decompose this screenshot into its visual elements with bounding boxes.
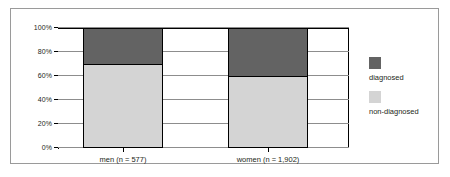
y-tick-0 (54, 147, 58, 148)
y-tick-80 (54, 51, 58, 52)
legend-swatch-non-diagnosed-icon (369, 91, 381, 103)
y-tick-100 (54, 27, 58, 28)
bar-segment-women-diagnosed[interactable] (229, 29, 307, 76)
legend-label-diagnosed: diagnosed (369, 74, 439, 82)
x-axis-label-women: women (n = 1,902) (237, 155, 300, 164)
bar-women[interactable] (228, 28, 308, 148)
legend-entry-non-diagnosed[interactable]: non-diagnosed (369, 91, 439, 116)
x-tick-women (268, 148, 269, 152)
legend-entry-diagnosed[interactable]: diagnosed (369, 57, 439, 82)
bar-segment-men-non-diagnosed[interactable] (84, 64, 162, 147)
bar-segment-men-diagnosed[interactable] (84, 29, 162, 64)
y-tick-20 (54, 123, 58, 124)
y-tick-60 (54, 75, 58, 76)
legend-label-non-diagnosed: non-diagnosed (369, 108, 439, 116)
x-tick-men (123, 148, 124, 152)
y-tick-label-0: 0% (42, 144, 52, 151)
chart-legend: diagnosed non-diagnosed (369, 57, 439, 124)
y-tick-label-20: 20% (38, 120, 52, 127)
legend-swatch-diagnosed-icon (369, 57, 381, 69)
bar-segment-women-non-diagnosed[interactable] (229, 76, 307, 147)
y-tick-label-40: 40% (38, 96, 52, 103)
chart-frame: 100% 80% 60% 40% 20% 0% men (n = 577) (10, 8, 439, 164)
plot-area: 100% 80% 60% 40% 20% 0% men (n = 577) (58, 28, 349, 148)
y-tick-40 (54, 99, 58, 100)
y-tick-label-100: 100% (34, 24, 52, 31)
x-axis-label-men: men (n = 577) (100, 155, 147, 164)
y-tick-label-80: 80% (38, 48, 52, 55)
bar-men[interactable] (83, 28, 163, 148)
y-tick-label-60: 60% (38, 72, 52, 79)
